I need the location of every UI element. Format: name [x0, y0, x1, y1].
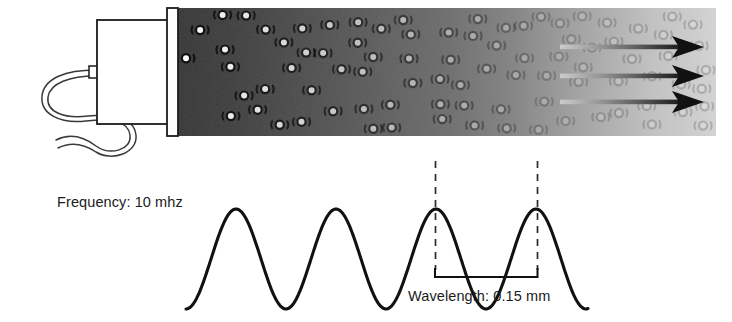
ultrasound-diagram: Frequency: 10 mhz Wavelength: 0.15 mm: [0, 0, 732, 322]
transducer: [42, 8, 178, 156]
wavelength-bracket: [435, 268, 538, 277]
propagation-arrows: [560, 36, 704, 113]
frequency-label: Frequency: 10 mhz: [57, 194, 183, 210]
transducer-body: [97, 20, 169, 124]
wavelength-measurement: [435, 161, 538, 277]
diagram-canvas: [0, 0, 732, 322]
wavelength-label: Wavelength: 0.15 mm: [408, 288, 550, 304]
crystal-faceplate: [167, 8, 178, 136]
